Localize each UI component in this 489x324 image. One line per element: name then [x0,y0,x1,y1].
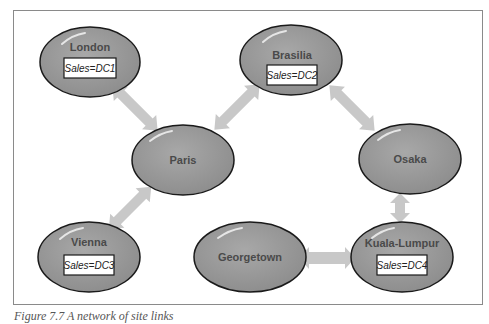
sales-label: Sales=DC4 [377,260,428,271]
node-brasilia: Brasilia Sales=DC2 [240,25,342,95]
node-label: Georgetown [218,251,282,263]
node-kuala-lumpur: Kuala-Lumpur Sales=DC4 [351,222,453,292]
node-label: Vienna [71,236,108,248]
sales-label: Sales=DC1 [65,63,116,74]
node-georgetown: Georgetown [194,222,306,292]
node-london: London Sales=DC1 [40,27,140,97]
sales-label: Sales=DC2 [267,70,318,81]
node-osaka: Osaka [359,124,461,194]
node-label: Brasilia [272,49,313,61]
node-label: Osaka [393,153,427,165]
node-vienna: Vienna Sales=DC3 [38,222,140,292]
sales-label: Sales=DC3 [64,260,115,271]
node-label: Paris [170,154,197,166]
node-paris: Paris [132,125,234,195]
node-label: Kuala-Lumpur [365,237,440,249]
figure-caption: Figure 7.7 A network of site links [14,309,173,324]
node-label: London [70,41,111,53]
